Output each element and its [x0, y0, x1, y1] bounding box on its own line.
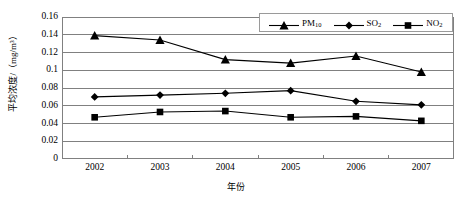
- data-point-NO2-2006: [353, 113, 360, 120]
- x-axis-title-text: 年份: [227, 182, 245, 192]
- legend-label-PM10: PM10: [302, 18, 322, 28]
- y-axis-tick-labels: 00.020.040.060.080.10.120.140.16: [0, 0, 58, 202]
- x-tick-marks: [127, 155, 388, 159]
- x-tick-label-2003: 2003: [130, 162, 190, 172]
- legend-label-NO2: NO2: [426, 18, 442, 28]
- y-tick-label: 0: [2, 154, 58, 164]
- series-line-PM10: [95, 36, 422, 72]
- y-tick-label: 0.14: [2, 30, 58, 40]
- x-tick-label-2006: 2006: [326, 162, 386, 172]
- x-tick-label-2002: 2002: [65, 162, 125, 172]
- y-tick-label: 0.04: [2, 119, 58, 129]
- y-tick-label: 0.06: [2, 101, 58, 111]
- series-line-NO2: [95, 111, 422, 121]
- y-tick-label: 0.08: [2, 83, 58, 93]
- legend-entry-NO2[interactable]: NO2: [393, 17, 442, 28]
- gridlines: [62, 17, 454, 141]
- chart-legend: PM10SO2NO2: [259, 13, 453, 32]
- chart-container: 平均浓度/（mg/m³） 00.020.040.060.080.10.120.1…: [0, 0, 471, 202]
- y-tick-label: 0.16: [2, 12, 58, 22]
- data-point-SO2-2006: [352, 97, 360, 105]
- x-tick-label-2004: 2004: [195, 162, 255, 172]
- data-point-NO2-2003: [157, 109, 164, 116]
- legend-marker-triangle-icon: [269, 17, 299, 28]
- legend-entry-PM10[interactable]: PM10: [269, 17, 322, 28]
- data-point-NO2-2004: [222, 108, 229, 115]
- data-point-NO2-2005: [287, 114, 294, 121]
- x-tick-label-2007: 2007: [391, 162, 451, 172]
- legend-entry-SO2[interactable]: SO2: [334, 17, 382, 28]
- legend-marker-square-icon: [393, 17, 423, 28]
- data-point-SO2-2004: [221, 89, 229, 97]
- series-line-SO2: [95, 91, 422, 105]
- data-point-NO2-2002: [91, 114, 98, 121]
- legend-marker-diamond-icon: [334, 17, 364, 28]
- x-axis-title: 年份: [0, 180, 471, 193]
- y-tick-label: 0.02: [2, 136, 58, 146]
- x-axis-tick-labels: 200220032004200520062007: [62, 162, 454, 178]
- y-tick-label: 0.12: [2, 48, 58, 58]
- plot-canvas: [62, 17, 454, 159]
- series-lines: [95, 36, 422, 121]
- data-point-NO2-2007: [418, 118, 425, 125]
- legend-label-SO2: SO2: [367, 18, 382, 28]
- data-point-PM10-2002: [90, 31, 99, 40]
- data-point-SO2-2003: [156, 91, 164, 99]
- data-point-SO2-2002: [91, 93, 99, 101]
- series-markers: [90, 31, 426, 124]
- y-tick-label: 0.1: [2, 65, 58, 75]
- data-point-SO2-2007: [417, 101, 425, 109]
- x-tick-label-2005: 2005: [261, 162, 321, 172]
